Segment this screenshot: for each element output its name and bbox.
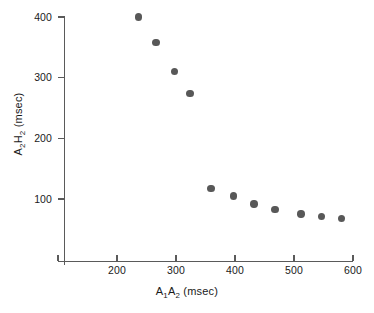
x-tick-label: 300: [156, 265, 196, 276]
x-tick-mark: [175, 255, 176, 261]
data-point: [207, 185, 214, 192]
y-axis-line: [64, 16, 65, 265]
data-point: [171, 68, 178, 75]
x-tick-label: 600: [333, 265, 373, 276]
data-point: [271, 206, 278, 213]
x-axis-title: A1A2 (msec): [0, 285, 374, 297]
x-tick-mark: [293, 255, 294, 261]
x-tick-label: 200: [97, 265, 137, 276]
data-point: [135, 13, 142, 20]
y-tick-label: 100: [0, 194, 52, 205]
x-tick-label: 500: [274, 265, 314, 276]
data-point: [230, 192, 237, 199]
y-tick-label: 400: [0, 12, 52, 23]
y-axis-title: A2H2 (msec): [12, 59, 24, 189]
x-axis-line: [58, 261, 353, 262]
data-point: [250, 200, 257, 207]
x-tick-mark: [234, 255, 235, 261]
data-point: [338, 215, 345, 222]
y-tick-label: 300: [0, 72, 52, 83]
data-point: [297, 210, 304, 217]
x-tick-mark: [57, 255, 58, 261]
y-tick-mark: [58, 16, 64, 17]
data-point: [318, 213, 325, 220]
y-tick-mark: [58, 138, 64, 139]
y-tick-mark: [58, 198, 64, 199]
x-tick-label: 400: [215, 265, 255, 276]
data-point: [186, 90, 193, 97]
x-tick-mark: [116, 255, 117, 261]
y-tick-mark: [58, 77, 64, 78]
x-axis-title-text: A1A2 (msec): [156, 285, 218, 297]
data-point: [152, 39, 159, 46]
scatter-plot: 100200300400 200300400500600 A1A2 (msec)…: [0, 0, 374, 313]
x-tick-mark: [352, 255, 353, 261]
y-axis-title-text: A2H2 (msec): [12, 93, 24, 156]
